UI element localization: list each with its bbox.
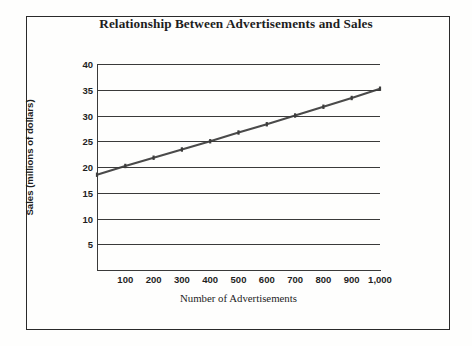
x-axis-title: Number of Advertisements (97, 292, 380, 304)
x-axis-line (97, 270, 381, 271)
gridline-y-20 (97, 167, 380, 168)
data-point-marker (153, 156, 155, 160)
gridline-y-40 (97, 64, 380, 65)
y-tick-label-15: 15 (67, 187, 93, 198)
data-point-marker (266, 122, 268, 126)
chart-figure-page: Relationship Between Advertisements and … (0, 0, 472, 346)
data-point-marker (237, 130, 239, 134)
y-tick-label-35: 35 (67, 84, 93, 95)
y-tick-label-30: 30 (67, 110, 93, 121)
x-tick-label-1000: 1,000 (360, 274, 400, 285)
gridline-y-10 (97, 219, 380, 220)
y-axis-title: Sales (millions of dollars) (24, 83, 35, 233)
gridline-y-35 (97, 90, 380, 91)
y-tick-label-10: 10 (67, 213, 93, 224)
y-tick-label-20: 20 (67, 162, 93, 173)
gridline-y-30 (97, 116, 380, 117)
y-tick-label-5: 5 (67, 239, 93, 250)
data-point-marker (181, 147, 183, 151)
y-tick-label-40: 40 (67, 59, 93, 70)
gridline-y-25 (97, 141, 380, 142)
data-point-marker (322, 105, 324, 109)
y-tick-label-25: 25 (67, 136, 93, 147)
gridline-y-15 (97, 193, 380, 194)
data-point-marker (351, 96, 353, 100)
gridline-y-5 (97, 244, 380, 245)
plot-area (97, 64, 380, 270)
y-axis-tick-labels: 510152025303540 (62, 0, 93, 346)
data-point-marker (96, 173, 98, 177)
